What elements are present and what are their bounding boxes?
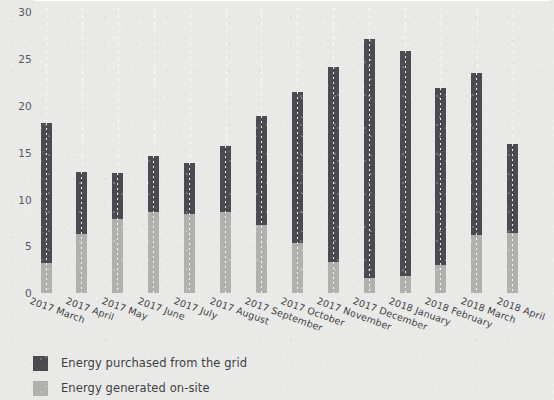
y-axis: 051015202530 xyxy=(0,0,32,300)
bar-dotted-gridline-icon xyxy=(297,92,298,293)
x-axis-baseline xyxy=(34,0,550,1)
bar-stack[interactable] xyxy=(41,123,52,293)
chart-legend: Energy purchased from the gridEnergy gen… xyxy=(33,353,433,400)
y-tick-label: 30 xyxy=(6,7,32,18)
bar-stack[interactable] xyxy=(435,88,446,293)
legend-item[interactable]: Energy generated on-site xyxy=(33,378,433,398)
x-axis: 2017 March2017 April2017 May2017 June201… xyxy=(0,296,554,352)
bar-dotted-gridline-icon xyxy=(117,173,118,294)
bar-dotted-gridline-icon xyxy=(225,146,226,293)
bar-stack[interactable] xyxy=(471,73,482,293)
y-tick-label: 15 xyxy=(6,148,32,159)
bar-dotted-gridline-icon xyxy=(46,123,47,293)
bar-dotted-gridline-icon xyxy=(189,163,190,293)
bar-dotted-gridline-icon xyxy=(440,88,441,293)
bar-stack[interactable] xyxy=(76,172,87,294)
bar-dotted-gridline-icon xyxy=(153,156,154,294)
bar-stack[interactable] xyxy=(364,39,375,294)
bar-dotted-gridline-icon xyxy=(369,39,370,294)
y-tick-label: 5 xyxy=(6,241,32,252)
bar-dotted-gridline-icon xyxy=(405,51,406,294)
bar-stack[interactable] xyxy=(400,51,411,294)
bar-stack[interactable] xyxy=(112,173,123,294)
legend-swatch-light xyxy=(33,381,48,396)
chart-plot-area: 051015202530 xyxy=(0,0,554,300)
y-tick-label: 20 xyxy=(6,101,32,112)
y-tick-label: 25 xyxy=(6,54,32,65)
bar-stack[interactable] xyxy=(184,163,195,293)
legend-label: Energy purchased from the grid xyxy=(61,357,247,370)
bar-stack[interactable] xyxy=(256,116,267,294)
bar-stack[interactable] xyxy=(507,144,518,294)
bar-dotted-gridline-icon xyxy=(81,172,82,294)
bar-stack[interactable] xyxy=(148,156,159,294)
legend-swatch-dark xyxy=(33,356,48,371)
bar-dotted-gridline-icon xyxy=(261,116,262,294)
bar-dotted-gridline-icon xyxy=(476,73,477,293)
bar-stack[interactable] xyxy=(220,146,231,293)
bar-dotted-gridline-icon xyxy=(512,144,513,294)
legend-label: Energy generated on-site xyxy=(61,382,210,395)
y-tick-label: 10 xyxy=(6,195,32,206)
bar-stack[interactable] xyxy=(328,67,339,294)
bar-dotted-gridline-icon xyxy=(333,67,334,294)
legend-item[interactable]: Energy purchased from the grid xyxy=(33,353,433,373)
bar-stack[interactable] xyxy=(292,92,303,293)
